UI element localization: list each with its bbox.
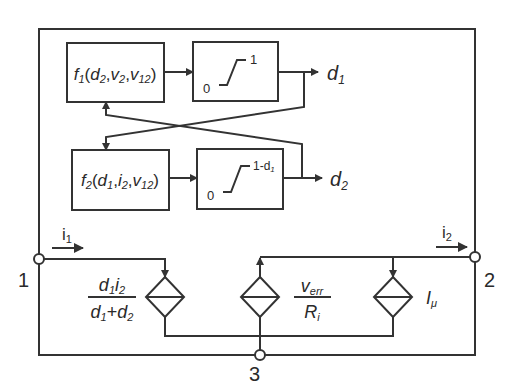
common-bottom-wire: [165, 317, 393, 336]
left-source-numerator: d1i2: [99, 275, 125, 296]
sat2-low-label: 0: [207, 188, 214, 203]
left-source-denominator: d1+d2: [91, 302, 134, 323]
sat1-high-label: 1: [250, 52, 257, 67]
f2-label: f2(d1,i2,v12): [81, 171, 159, 191]
i2-label: i2: [442, 223, 452, 243]
d2-output-label: d2: [330, 168, 348, 193]
bottom-return-wire: [39, 257, 475, 355]
node-2: [470, 252, 480, 262]
i1-label: i1: [62, 225, 72, 245]
saturation-2-curve-icon: [223, 166, 250, 192]
middle-source-numerator: verr: [301, 276, 325, 297]
node-1: [34, 254, 44, 264]
saturation-1-curve-icon: [219, 60, 246, 85]
node-1-label: 1: [18, 269, 29, 291]
right-source-label: Iμ: [426, 288, 437, 309]
node-3-label: 3: [249, 363, 260, 385]
f1-label: f1(d2,v2,v12): [74, 65, 157, 85]
d1-output-label: d1: [327, 62, 345, 87]
middle-source-denominator: Ri: [304, 302, 320, 323]
node-2-label: 2: [484, 269, 495, 291]
circuit-diagram: f1(d2,v2,v12) f2(d1,i2,v12) 0 1 0 1-d1 d…: [0, 0, 519, 390]
sat1-low-label: 0: [203, 81, 210, 96]
sat2-high-label: 1-d1: [253, 159, 275, 174]
node-3: [255, 350, 265, 360]
